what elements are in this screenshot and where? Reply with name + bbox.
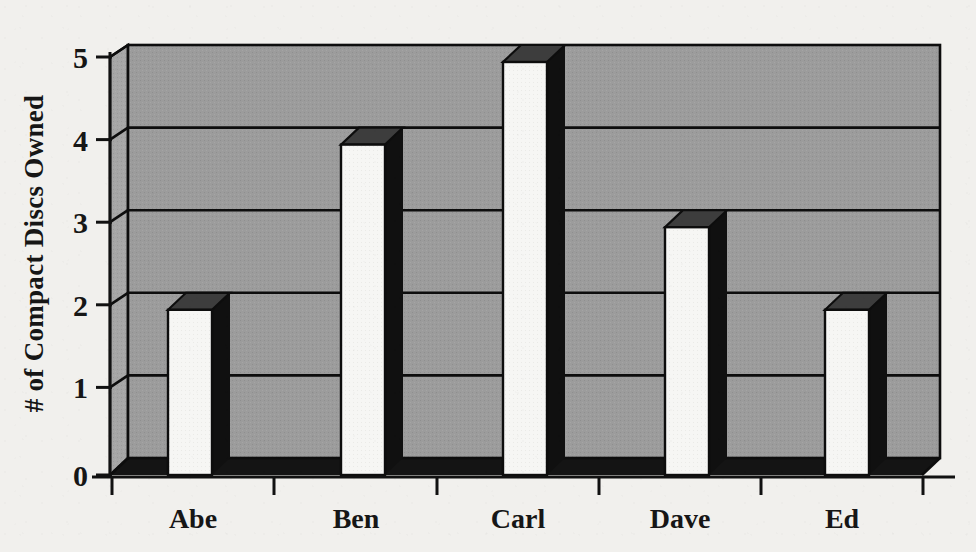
x-category-labels: Abe Ben Carl Dave Ed [169, 503, 860, 534]
bar-side-face [709, 210, 727, 475]
y-tick-label: 5 [73, 41, 88, 74]
bar-front-face [168, 310, 212, 475]
y-tick-label: 2 [73, 289, 88, 322]
bar-chart-figure: 0 1 2 3 4 5 Abe Ben Carl Dave Ed # of Co… [0, 0, 976, 552]
x-tick-label: Abe [169, 503, 217, 534]
y-tick-label: 4 [73, 124, 88, 157]
bar-front-face [665, 227, 709, 475]
y-tick-label: 0 [73, 459, 88, 492]
bar-ed [825, 293, 887, 475]
chart-canvas: 0 1 2 3 4 5 Abe Ben Carl Dave Ed [0, 0, 976, 552]
x-tick-label: Dave [650, 503, 711, 534]
bar-side-face [869, 293, 887, 475]
bar-side-face [547, 45, 565, 475]
y-tick-labels: 0 1 2 3 4 5 [73, 41, 88, 492]
y-tick-label: 1 [73, 371, 88, 404]
bar-abe [168, 293, 230, 475]
y-axis-title: # of Compact Discs Owned [19, 34, 50, 474]
x-tick-label: Carl [491, 503, 546, 534]
x-tick-marks [112, 477, 923, 495]
left-side-wall [110, 45, 128, 475]
bar-front-face [503, 62, 547, 475]
bar-side-face [385, 128, 403, 475]
bar-ben [341, 128, 403, 475]
bar-front-face [341, 145, 385, 475]
bar-side-face [212, 293, 230, 475]
bar-front-face [825, 310, 869, 475]
bar-dave [665, 210, 727, 475]
y-tick-label: 3 [73, 206, 88, 239]
x-tick-label: Ed [825, 503, 860, 534]
x-tick-label: Ben [333, 503, 380, 534]
bar-carl [503, 45, 565, 475]
